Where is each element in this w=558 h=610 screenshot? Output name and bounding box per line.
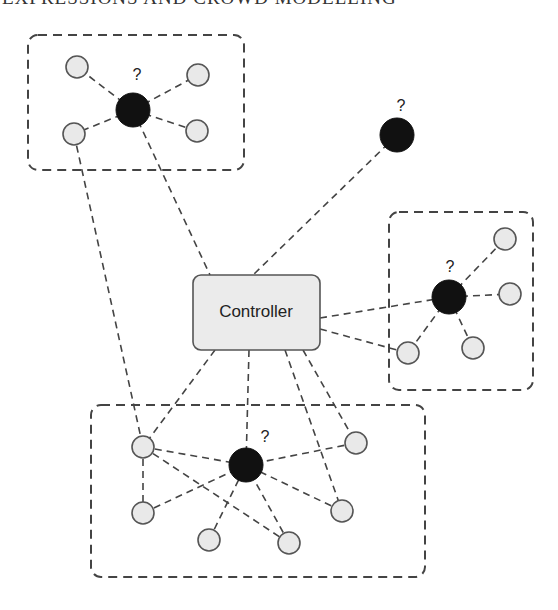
peer-node [66, 56, 88, 78]
unknown-marker: ? [261, 428, 270, 445]
agent-node-bottom [229, 448, 263, 482]
agent-node-lone [380, 118, 414, 152]
peer-node [186, 120, 208, 142]
unknown-marker: ? [397, 97, 406, 114]
peer-node [345, 432, 367, 454]
unknown-marker: ? [446, 258, 455, 275]
peer-node [494, 228, 516, 250]
peer-node [499, 283, 521, 305]
network-diagram: Controller ? ? ? ? [0, 0, 558, 610]
agent-node-top-left [116, 93, 150, 127]
peer-node [278, 532, 300, 554]
peer-node [187, 64, 209, 86]
peer-node [397, 342, 419, 364]
peer-node [331, 500, 353, 522]
peer-node [132, 502, 154, 524]
agent-nodes: ? ? ? ? [116, 66, 466, 482]
agent-node-right [432, 280, 466, 314]
controller-label: Controller [219, 302, 293, 321]
peer-node [132, 436, 154, 458]
peer-node [198, 529, 220, 551]
peer-node [462, 337, 484, 359]
unknown-marker: ? [133, 66, 142, 83]
group-box-bottom [91, 405, 425, 577]
peer-node [63, 123, 85, 145]
controller: Controller [193, 275, 320, 350]
